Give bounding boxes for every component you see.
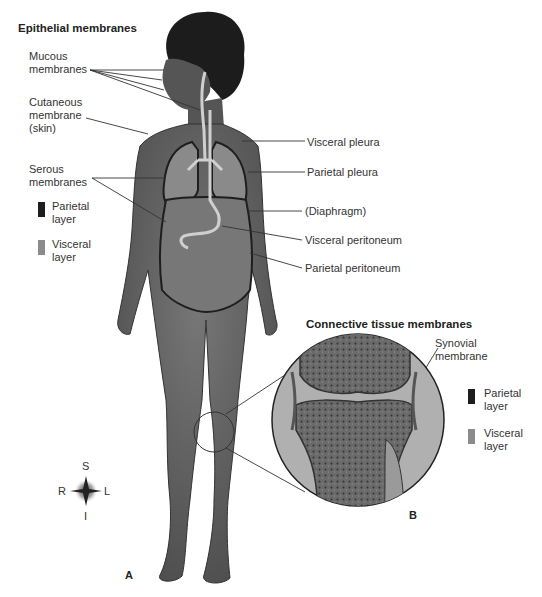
parietal-swatch-right bbox=[468, 389, 475, 404]
visceral-legend-right: Visceral layer bbox=[484, 427, 523, 453]
compass-left: L bbox=[104, 485, 110, 498]
parietal-legend-right: Parietal layer bbox=[484, 387, 521, 413]
compass-rose bbox=[70, 476, 102, 506]
body bbox=[118, 72, 277, 583]
connective-tissue-title: Connective tissue membranes bbox=[306, 318, 472, 330]
synovial-membrane-label: Synovial membrane bbox=[435, 337, 488, 363]
parietal-pleura-label: Parietal pleura bbox=[307, 166, 378, 179]
parietal-swatch-left bbox=[38, 202, 45, 217]
compass-right: R bbox=[58, 485, 66, 498]
anatomy-illustration bbox=[0, 0, 542, 597]
panel-label-a: A bbox=[125, 569, 133, 581]
visceral-swatch-left bbox=[38, 240, 45, 255]
visceral-swatch-right bbox=[468, 429, 475, 444]
compass-inferior: I bbox=[84, 510, 87, 523]
compass-superior: S bbox=[82, 460, 89, 473]
visceral-pleura-label: Visceral pleura bbox=[307, 136, 380, 149]
cutaneous-membrane-label: Cutaneous membrane (skin) bbox=[29, 96, 82, 135]
visceral-legend-left: Visceral layer bbox=[52, 238, 91, 264]
diaphragm-label: (Diaphragm) bbox=[305, 205, 366, 218]
visceral-peritoneum-label: Visceral peritoneum bbox=[305, 234, 402, 247]
parietal-peritoneum-label: Parietal peritoneum bbox=[305, 262, 400, 275]
epithelial-membranes-title: Epithelial membranes bbox=[18, 22, 137, 34]
serous-membranes-label: Serous membranes bbox=[29, 163, 87, 189]
mucous-membranes-label: Mucous membranes bbox=[29, 50, 87, 76]
parietal-legend-left: Parietal layer bbox=[52, 200, 89, 226]
panel-label-b: B bbox=[409, 509, 417, 521]
knee-joint-detail bbox=[272, 330, 444, 520]
